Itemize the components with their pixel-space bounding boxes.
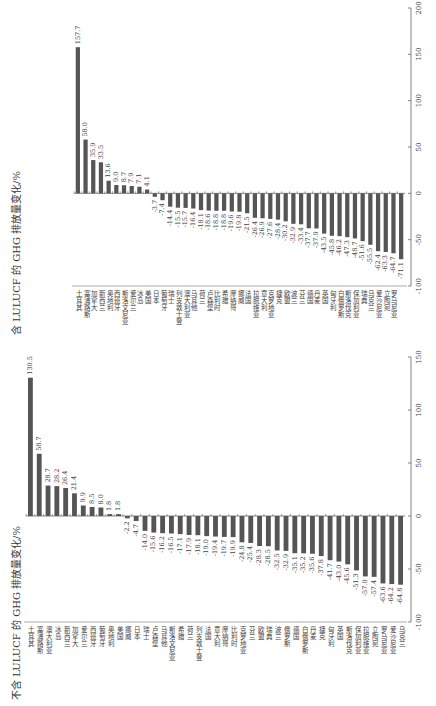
value-axis-tick-label: -100 bbox=[415, 614, 423, 630]
data-bar bbox=[389, 516, 394, 584]
data-bar bbox=[54, 486, 59, 516]
data-bar bbox=[257, 516, 262, 546]
data-bar bbox=[76, 47, 80, 193]
bar-value-label: 157.7 bbox=[74, 26, 82, 45]
data-bar bbox=[368, 193, 372, 244]
category-label: 马耳他 bbox=[159, 626, 167, 648]
data-bar bbox=[330, 193, 334, 235]
category-label: 意大利 bbox=[212, 625, 220, 647]
data-bar bbox=[160, 516, 165, 533]
bar-value-label: 33.5 bbox=[97, 145, 105, 159]
bar-value-label: -14.0 bbox=[141, 534, 149, 551]
bar-value-label: -35.6 bbox=[308, 557, 316, 574]
category-label: 列支敦士登 bbox=[194, 625, 202, 661]
bar-value-label: -64.8 bbox=[396, 588, 404, 605]
category-label: 瑞士 bbox=[141, 625, 149, 640]
value-axis-tick-label: 0 bbox=[415, 514, 423, 518]
category-label: 捷克 bbox=[317, 625, 325, 641]
data-bar bbox=[391, 193, 395, 253]
bar-value-label: -28.5 bbox=[264, 549, 272, 566]
bar-value-label: -41.7 bbox=[326, 563, 334, 580]
bar-value-label: 1.8 bbox=[105, 501, 113, 511]
data-bar bbox=[214, 193, 218, 210]
data-bar bbox=[176, 193, 180, 207]
category-label: 葡萄牙 bbox=[97, 625, 105, 648]
bar-value-label: -19.9 bbox=[229, 540, 237, 557]
data-bar bbox=[46, 486, 51, 516]
bar-value-label: -71.1 bbox=[397, 262, 405, 279]
bar-value-label: -19.4 bbox=[211, 540, 219, 557]
data-bar bbox=[81, 506, 86, 516]
category-label: 法国 bbox=[203, 625, 211, 641]
bar-value-label: 28.7 bbox=[44, 468, 52, 482]
category-label: 塞浦路斯 bbox=[35, 625, 43, 655]
data-bar bbox=[319, 516, 324, 556]
data-bar bbox=[28, 378, 33, 516]
data-bar bbox=[98, 508, 103, 516]
bar-value-label: 130.5 bbox=[26, 356, 34, 375]
data-bar bbox=[291, 193, 295, 223]
data-bar bbox=[231, 516, 236, 537]
bar-value-label: -25.4 bbox=[246, 546, 254, 563]
category-label: 英国 bbox=[335, 625, 343, 641]
data-bar bbox=[398, 516, 403, 585]
data-bar bbox=[322, 193, 326, 233]
data-bar bbox=[299, 193, 303, 224]
data-bar bbox=[151, 516, 156, 533]
data-bar bbox=[63, 488, 68, 516]
data-bar bbox=[187, 516, 192, 535]
data-bar bbox=[284, 193, 288, 221]
value-axis-tick-label: 50 bbox=[415, 143, 423, 152]
chart-with-lulucf-plot: -100-50050100150200157.7土耳其58.0塞浦路斯35.9加… bbox=[0, 0, 436, 340]
data-bar bbox=[268, 193, 272, 219]
category-label: 卢森堡 bbox=[150, 625, 158, 647]
bar-value-label: -24.8 bbox=[238, 545, 246, 562]
data-bar bbox=[122, 185, 126, 193]
data-bar bbox=[160, 193, 164, 200]
chart-with-lulucf-panel: 含 LULUCF 的 GHG 排放量变化/% -100-500501001502… bbox=[0, 0, 436, 340]
data-bar bbox=[107, 514, 112, 516]
data-bar bbox=[90, 507, 95, 516]
category-label: 挪威 bbox=[123, 625, 131, 641]
category-label: 荷兰 bbox=[185, 625, 193, 640]
data-bar bbox=[240, 516, 245, 542]
data-bar bbox=[153, 193, 157, 196]
data-bar bbox=[72, 493, 77, 516]
bar-value-label: -35.2 bbox=[299, 556, 307, 573]
data-bar bbox=[260, 193, 264, 218]
bar-value-label: -51.3 bbox=[352, 573, 360, 590]
bar-value-label: -18.1 bbox=[194, 538, 202, 555]
data-bar bbox=[168, 193, 172, 206]
bar-value-label: -17.1 bbox=[176, 537, 184, 554]
category-label: 丹麦 bbox=[308, 626, 316, 641]
bar-value-label: -63.6 bbox=[379, 586, 387, 603]
category-label: 德国 bbox=[291, 625, 299, 641]
bar-value-label: 1.8 bbox=[114, 501, 122, 511]
data-bar bbox=[307, 193, 311, 228]
data-bar bbox=[207, 193, 211, 210]
data-bar bbox=[114, 185, 118, 193]
data-bar bbox=[183, 193, 187, 208]
data-bar bbox=[376, 193, 380, 251]
data-bar bbox=[130, 186, 134, 193]
category-label: 加拿大 bbox=[70, 625, 78, 648]
category-label: 斯洛文尼亚 bbox=[167, 625, 175, 661]
value-axis-tick-label: 100 bbox=[415, 94, 423, 107]
category-label: 斯洛伐克 bbox=[344, 625, 352, 655]
category-label: 摩纳哥 bbox=[220, 625, 228, 647]
category-label: 新西兰 bbox=[62, 625, 70, 647]
data-bar bbox=[284, 516, 289, 551]
value-axis-tick-label: 0 bbox=[415, 191, 423, 195]
category-label: 保加利亚 bbox=[353, 625, 361, 654]
value-axis-tick-label: -100 bbox=[415, 278, 423, 294]
category-label: 罗马尼亚 bbox=[379, 626, 387, 654]
chart-without-lulucf-plot: -100-50050100150130.5土耳其58.7塞浦路斯28.7澳大利亚… bbox=[0, 345, 436, 706]
data-bar bbox=[143, 516, 148, 531]
data-bar bbox=[134, 516, 139, 521]
bar-value-label: -28.3 bbox=[255, 549, 263, 566]
category-label: 波兰 bbox=[273, 625, 281, 640]
bar-value-label: 21.4 bbox=[70, 476, 78, 490]
category-label: 日本 bbox=[132, 626, 140, 641]
bar-value-label: -19.0 bbox=[202, 539, 210, 556]
data-bar bbox=[384, 193, 388, 252]
